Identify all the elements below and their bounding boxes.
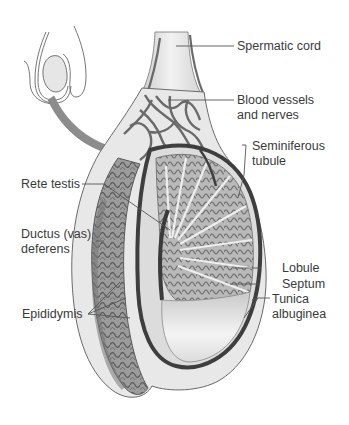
- label-tunica-line1: Tunica: [272, 292, 309, 306]
- label-ductus-line2: deferens: [21, 242, 70, 256]
- label-tunica-line2: albuginea: [272, 307, 326, 321]
- label-spermatic-cord: Spermatic cord: [237, 39, 321, 53]
- testis-anatomy-figure: Spermatic cord Blood vessels and nerves …: [0, 0, 349, 425]
- label-blood-vessels-line1: Blood vessels: [237, 93, 314, 107]
- label-septum: Septum: [282, 277, 325, 291]
- anatomy-illustration: [0, 0, 349, 425]
- label-blood-vessels-line2: and nerves: [237, 108, 299, 122]
- inset-body-outline: [24, 26, 86, 104]
- label-seminiferous-line1: Seminiferous: [252, 139, 325, 153]
- label-lobule: Lobule: [282, 261, 320, 275]
- label-seminiferous-line2: tubule: [252, 154, 286, 168]
- testis: [137, 146, 260, 368]
- label-epididymis: Epididymis: [22, 307, 82, 321]
- label-ductus-line1: Ductus (vas): [21, 227, 91, 241]
- label-rete-testis: Rete testis: [21, 177, 80, 191]
